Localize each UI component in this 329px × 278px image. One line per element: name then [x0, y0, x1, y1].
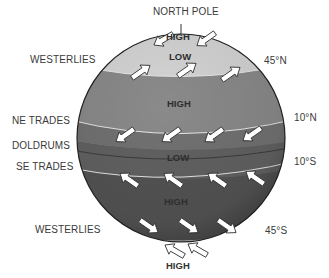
polar-high-south-label: HIGH [166, 260, 190, 271]
polar-high-north-label: HIGH [166, 31, 190, 42]
subtropical-high-north-label: HIGH [167, 98, 191, 109]
se-trades-label: SE TRADES [16, 161, 73, 172]
latitude-10s-label: 10°S [294, 156, 316, 167]
latitude-45n-label: 45°N [264, 55, 287, 66]
globe-diagram [0, 0, 329, 278]
equatorial-low-label: LOW [167, 152, 189, 163]
ne-trades-label: NE TRADES [12, 115, 70, 126]
doldrums-label: DOLDRUMS [12, 140, 70, 151]
westerlies-south-label: WESTERLIES [35, 224, 100, 235]
latitude-45s-label: 45°S [265, 225, 287, 236]
subpolar-low-north-label: LOW [169, 51, 191, 62]
subtropical-high-south-label: HIGH [164, 196, 188, 207]
latitude-10n-label: 10°N [294, 112, 317, 123]
north-pole-label: NORTH POLE [153, 6, 219, 17]
westerlies-north-label: WESTERLIES [30, 54, 95, 65]
